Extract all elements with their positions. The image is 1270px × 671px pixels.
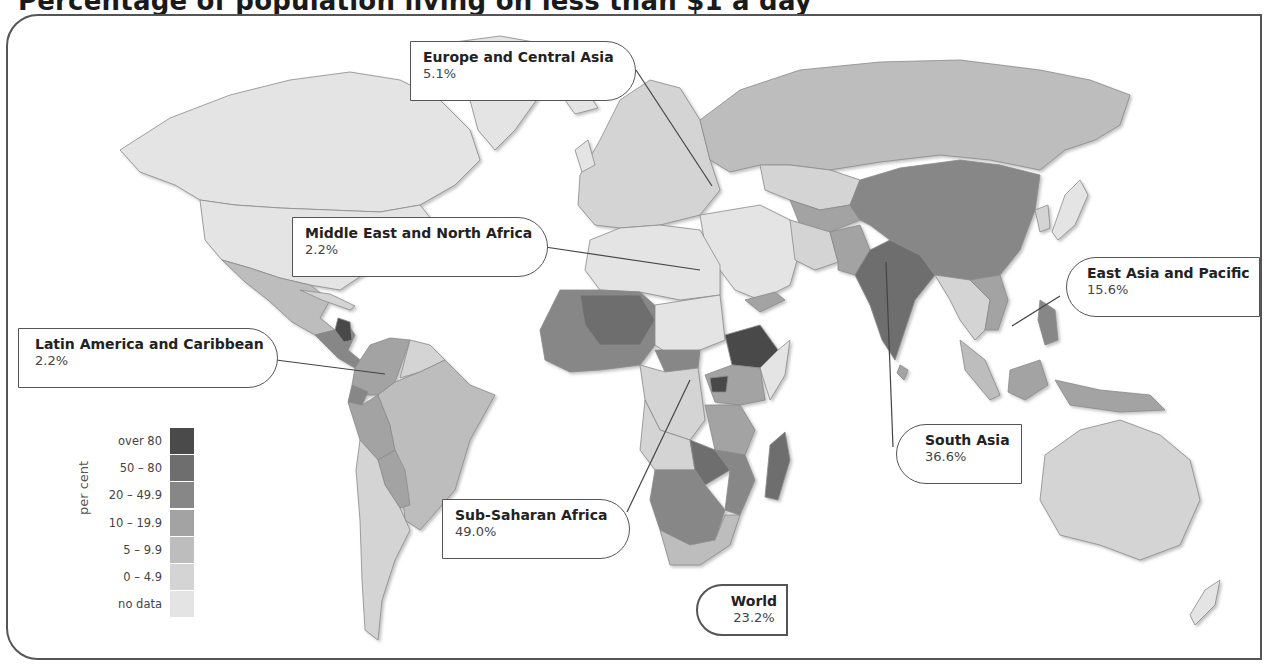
legend-label: 10 – 19.9	[109, 516, 162, 530]
legend-swatch	[170, 428, 194, 454]
europe	[578, 80, 720, 228]
sudan-chad	[655, 295, 725, 355]
legend-label: no data	[118, 597, 162, 611]
legend-item-5-9: 5 – 9.9	[90, 536, 194, 563]
legend-axis-label: per cent	[76, 461, 91, 515]
legend-label: over 80	[118, 434, 162, 448]
legend-item-50-80: 50 – 80	[90, 454, 194, 481]
region-name: Europe and Central Asia	[423, 49, 623, 65]
callout-east-asia-pacific: East Asia and Pacific 15.6%	[1066, 257, 1260, 317]
legend-item-10-19: 10 – 19.9	[90, 509, 194, 536]
legend: per cent over 80 50 – 80 20 – 49.9 10 – …	[90, 427, 194, 618]
region-value: 36.6%	[925, 449, 1009, 464]
legend-item-20-49: 20 – 49.9	[90, 482, 194, 509]
borneo	[1008, 360, 1048, 400]
australia	[1040, 420, 1200, 560]
legend-label: 50 – 80	[120, 461, 162, 475]
korea	[1035, 205, 1050, 232]
japan	[1052, 180, 1088, 240]
callout-latin-america-caribbean: Latin America and Caribbean 2.2%	[18, 328, 278, 388]
callout-sub-saharan-africa: Sub-Saharan Africa 49.0%	[442, 499, 630, 559]
region-name: World	[722, 593, 786, 609]
region-name: South Asia	[925, 432, 1009, 448]
russia	[700, 60, 1130, 172]
legend-swatch	[170, 537, 194, 563]
new-zealand	[1190, 580, 1220, 625]
legend-label: 20 – 49.9	[109, 488, 162, 502]
legend-label: 5 – 9.9	[123, 543, 162, 557]
philippines	[1038, 300, 1058, 345]
region-name: Latin America and Caribbean	[35, 336, 265, 352]
callout-middle-east-north-africa: Middle East and North Africa 2.2%	[292, 217, 548, 277]
region-name: Middle East and North Africa	[305, 225, 535, 241]
region-value: 15.6%	[1087, 282, 1247, 297]
region-value: 49.0%	[455, 524, 617, 539]
uganda	[710, 376, 728, 392]
region-value: 23.2%	[722, 610, 786, 625]
tanzania	[705, 405, 755, 455]
legend-item-over-80: over 80	[90, 427, 194, 454]
callout-europe-central-asia: Europe and Central Asia 5.1%	[410, 41, 636, 101]
region-value: 2.2%	[305, 242, 535, 257]
indonesia-east	[1055, 380, 1165, 412]
legend-swatch	[170, 510, 194, 536]
malaysia-sumatra	[960, 340, 1000, 400]
legend-swatch	[170, 482, 194, 508]
callout-south-asia: South Asia 36.6%	[896, 424, 1022, 484]
legend-label: 0 – 4.9	[123, 570, 162, 584]
region-value: 2.2%	[35, 353, 265, 368]
region-value: 5.1%	[423, 66, 623, 81]
region-name: Sub-Saharan Africa	[455, 507, 617, 523]
madagascar	[765, 432, 790, 500]
callout-world: World 23.2%	[696, 584, 788, 636]
legend-item-no-data: no data	[90, 591, 194, 618]
kazakhstan	[760, 165, 860, 210]
region-name: East Asia and Pacific	[1087, 265, 1247, 281]
legend-item-0-4: 0 – 4.9	[90, 563, 194, 590]
legend-swatch	[170, 564, 194, 590]
sri-lanka	[897, 365, 908, 380]
legend-swatch	[170, 591, 194, 617]
legend-swatch	[170, 455, 194, 481]
